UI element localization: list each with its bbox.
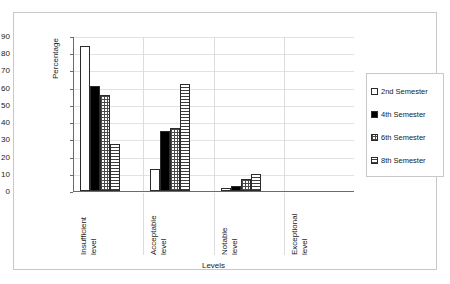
y-axis-tick-label: 10 (0, 171, 10, 179)
legend-swatch (371, 134, 378, 141)
plot-inner (73, 37, 354, 192)
x-axis-category-line: Insufficient (79, 217, 88, 255)
y-axis-tick-label: 0 (0, 188, 10, 196)
x-axis-line (73, 191, 354, 192)
bar-group (143, 37, 213, 191)
y-axis-tick-mark (70, 175, 73, 176)
x-axis-title: Levels (73, 261, 354, 270)
bar (100, 95, 110, 191)
bar (180, 84, 190, 191)
y-axis-tick-label: 80 (0, 50, 10, 58)
y-axis-tick-mark (70, 158, 73, 159)
bar-group (74, 37, 143, 191)
x-axis-category-line: level (89, 239, 98, 255)
legend-item[interactable]: 6th Semester (371, 126, 439, 149)
x-axis-category-label: Insufficientlevel (79, 195, 149, 257)
bar (221, 188, 231, 191)
x-axis-category-separator (284, 193, 285, 255)
x-axis-category-line: level (300, 239, 309, 255)
y-axis-tick-label: 40 (0, 119, 10, 127)
y-axis-title: Percentage (51, 38, 60, 79)
x-axis-category-line: Exceptional (290, 214, 299, 255)
bar (90, 86, 100, 191)
bar-group-bars (74, 37, 120, 191)
bar-group-bars (215, 37, 261, 191)
bar (110, 144, 120, 191)
x-axis-category-separator (143, 193, 144, 255)
bar-groups (74, 37, 354, 191)
legend-item[interactable]: 2nd Semester (371, 80, 439, 103)
y-axis-tick-label: 30 (0, 136, 10, 144)
bar (231, 186, 241, 191)
bar-group-bars (144, 37, 190, 191)
y-axis-tick-label: 50 (0, 102, 10, 110)
y-axis-tick-mark (70, 106, 73, 107)
legend-swatch (371, 111, 378, 118)
x-axis-category-label: Acceptablelevel (149, 195, 219, 257)
plot-area: 9080706050403020100 Percentage (73, 37, 354, 192)
x-axis-category-line: level (230, 239, 239, 255)
y-axis-tick-mark (70, 192, 73, 193)
bar-group-bars (285, 37, 291, 191)
x-axis-category-separator (214, 193, 215, 255)
y-axis-tick-mark (70, 37, 73, 38)
bar (150, 169, 160, 191)
y-axis-tick-mark (70, 89, 73, 90)
chart-frame: 9080706050403020100 Percentage Insuffici… (13, 12, 437, 270)
y-axis-tick-mark (70, 54, 73, 55)
legend-label: 6th Semester (381, 133, 426, 142)
bar (160, 131, 170, 191)
legend-swatch (371, 157, 378, 164)
y-axis-tick-label: 20 (0, 154, 10, 162)
legend-label: 4th Semester (381, 110, 426, 119)
legend-item[interactable]: 4th Semester (371, 103, 439, 126)
bar (170, 128, 180, 191)
x-axis-category-line: level (159, 239, 168, 255)
x-axis-category-label: Notablelevel (220, 195, 290, 257)
bar (251, 174, 261, 191)
legend-label: 2nd Semester (381, 87, 428, 96)
legend-swatch (371, 88, 378, 95)
y-axis-tick-label: 60 (0, 85, 10, 93)
x-axis-category-line: Notable (220, 227, 229, 255)
legend-label: 8th Semester (381, 156, 426, 165)
y-axis-tick-mark (70, 140, 73, 141)
y-axis-tick-label: 70 (0, 67, 10, 75)
x-axis-category-line: Acceptable (149, 215, 158, 255)
y-axis-tick-mark (70, 71, 73, 72)
bar-group (284, 37, 354, 191)
x-axis-category-label: Exceptionallevel (290, 195, 360, 257)
chart-figure: 9080706050403020100 Percentage Insuffici… (0, 0, 450, 284)
bar (80, 46, 90, 191)
legend-item[interactable]: 8th Semester (371, 149, 439, 172)
y-axis-tick-label: 90 (0, 33, 10, 41)
bar-group (214, 37, 284, 191)
y-axis-tick-mark (70, 123, 73, 124)
bar (241, 179, 251, 191)
chart-legend: 2nd Semester4th Semester6th Semester8th … (366, 73, 444, 177)
